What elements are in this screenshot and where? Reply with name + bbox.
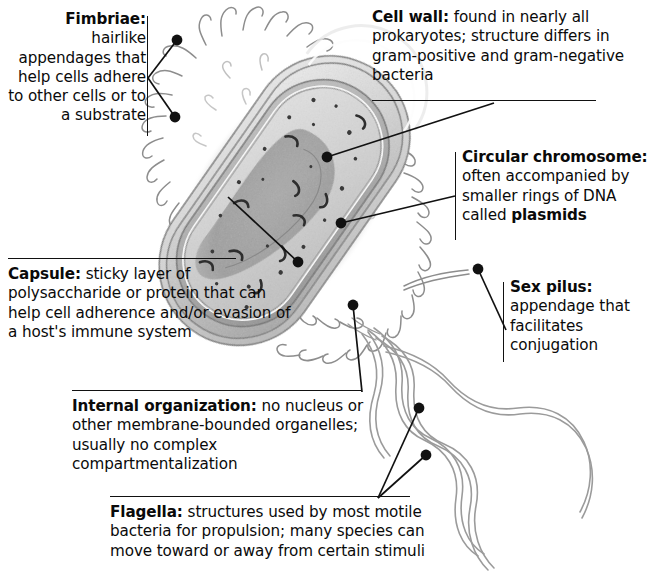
callout-cell-wall: Cell wall: found in nearly all prokaryot…: [372, 8, 654, 85]
dot-fimbriae-1: [172, 35, 183, 46]
callout-fimbriae-title: Fimbriae:: [65, 10, 146, 28]
callout-circular-chromosome-text: Circular chromosome: often accompanied b…: [462, 148, 658, 225]
callout-sex-pilus-text: Sex pilus: appendage that facilitates co…: [510, 278, 656, 355]
callout-sex-pilus-title: Sex pilus:: [510, 278, 593, 296]
circular-chromosome-rule: [455, 152, 456, 240]
callout-plasmids-emphasis: plasmids: [511, 206, 587, 224]
cell-wall-rule: [372, 100, 596, 101]
capsule-rule: [8, 258, 236, 259]
callout-sex-pilus-body: appendage that facilitates conjugation: [510, 297, 630, 354]
callout-capsule-text: Capsule: sticky layer of polysaccharide …: [8, 265, 298, 342]
callout-flagella-title: Flagella:: [110, 503, 183, 521]
callout-internal-organization-text: Internal organization: no nucleus or oth…: [72, 397, 372, 474]
callout-fimbriae: Fimbriae: hairlike appendages that help …: [8, 10, 146, 126]
callout-sex-pilus: Sex pilus: appendage that facilitates co…: [510, 278, 656, 355]
dot-flagella-1: [414, 403, 425, 414]
sex-pilus-rule: [503, 282, 504, 362]
callout-fimbriae-body: hairlike appendages that help cells adhe…: [8, 29, 146, 124]
callout-circular-chromosome: Circular chromosome: often accompanied b…: [462, 148, 658, 225]
dot-cell-wall: [322, 152, 333, 163]
callout-capsule: Capsule: sticky layer of polysaccharide …: [8, 265, 298, 342]
callout-fimbriae-text: Fimbriae: hairlike appendages that help …: [8, 10, 146, 126]
internal-organization-rule: [72, 390, 362, 391]
figure-canvas: Fimbriae: hairlike appendages that help …: [0, 0, 660, 582]
dot-sex-pilus: [473, 264, 484, 275]
fimbriae-rule: [147, 16, 148, 136]
callout-internal-organization-title: Internal organization:: [72, 397, 257, 415]
flagella-rule: [110, 496, 410, 497]
callout-flagella: Flagella: structures used by most motile…: [110, 503, 428, 561]
dot-fimbriae-2: [170, 112, 181, 123]
dot-circular-chromosome: [336, 218, 347, 229]
dot-internal-organization: [348, 300, 359, 311]
dot-flagella-2: [421, 450, 432, 461]
callout-cell-wall-title: Cell wall:: [372, 8, 449, 26]
sex-pilus: [404, 270, 469, 290]
callout-internal-organization: Internal organization: no nucleus or oth…: [72, 397, 372, 474]
callout-cell-wall-text: Cell wall: found in nearly all prokaryot…: [372, 8, 654, 85]
callout-capsule-title: Capsule:: [8, 265, 81, 283]
callout-flagella-text: Flagella: structures used by most motile…: [110, 503, 428, 561]
callout-circular-chromosome-title: Circular chromosome:: [462, 148, 648, 166]
